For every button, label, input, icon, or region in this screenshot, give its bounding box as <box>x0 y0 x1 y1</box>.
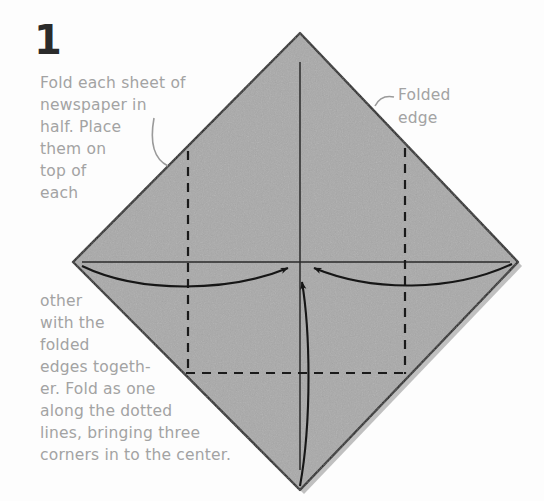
label-folded-edge: Folded edge <box>398 84 518 130</box>
instruction-text-top: Fold each sheet of newspaper in half. Pl… <box>40 72 230 204</box>
illustration-page: 1 Fold each sheet of newspaper in half. … <box>0 0 544 501</box>
instruction-text-bottom: other with the folded edges togeth- er. … <box>40 290 270 466</box>
step-number: 1 <box>34 20 61 60</box>
leader-line-folded-edge-right <box>375 97 394 106</box>
